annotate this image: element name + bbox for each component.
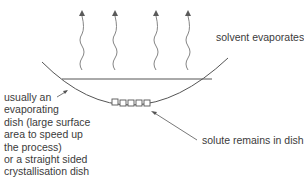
- vapour-arrows: [80, 16, 190, 70]
- wavy-arrow-icon: [186, 16, 190, 70]
- dish-label-line: usually an: [4, 91, 90, 103]
- dish-label-line: the process): [4, 141, 90, 153]
- dish-description-label: usually an evaporating dish (large surfa…: [4, 91, 90, 178]
- dish-label-line: or a straight sided: [4, 153, 90, 165]
- wavy-arrow-icon: [80, 16, 84, 70]
- arrowheads: [79, 10, 191, 16]
- dish-label-line: area to speed up: [4, 128, 90, 140]
- dish-label-line: evaporating: [4, 103, 90, 115]
- solute-remains-label: solute remains in dish: [202, 134, 304, 146]
- dish-label-line: crystallisation dish: [4, 165, 90, 177]
- solute-crystals: [112, 99, 150, 106]
- dish-label-line: dish (large surface: [4, 116, 90, 128]
- solute-pointer-line: [153, 112, 197, 140]
- wavy-arrow-icon: [154, 16, 158, 70]
- solvent-evaporates-label: solvent evaporates: [216, 31, 304, 43]
- wavy-arrow-icon: [113, 16, 117, 70]
